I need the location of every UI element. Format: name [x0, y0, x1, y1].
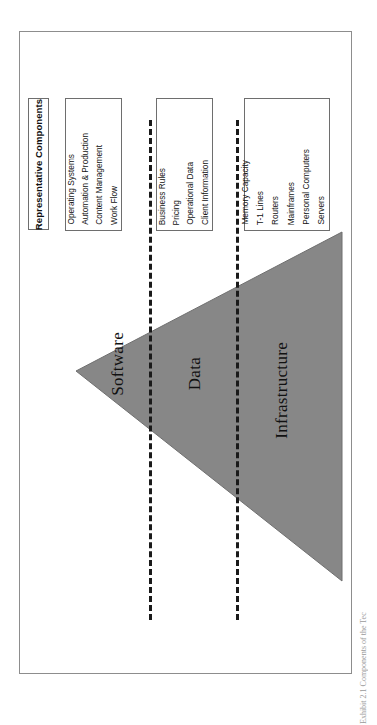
component-item: Routers — [271, 196, 279, 225]
legend-title-label: Representative Components — [33, 98, 44, 229]
component-item: Content Management — [95, 145, 103, 225]
component-item: Personal Computers — [302, 149, 310, 225]
pyramid-polygon — [76, 232, 342, 581]
divider-data-infrastructure — [236, 120, 239, 620]
component-item: Automation & Production — [81, 133, 89, 225]
component-item: Mainframes — [287, 182, 295, 225]
component-list-data: Client Information Operational Data Pric… — [157, 99, 212, 230]
component-box-infrastructure: Servers Personal Computers Mainframes Ro… — [244, 98, 330, 231]
component-item: Operating Systems — [67, 154, 75, 225]
layer-label-data: Data — [185, 357, 205, 390]
component-item: Business Rules — [158, 168, 166, 225]
component-box-data: Client Information Operational Data Pric… — [156, 98, 213, 231]
figure-caption: Exhibit 2.1 Components of the Technology… — [359, 612, 368, 724]
divider-software-data — [149, 120, 152, 620]
component-item: Servers — [317, 196, 325, 225]
legend-title-box: Representative Components — [28, 98, 49, 230]
component-item: Work Flow — [110, 186, 118, 225]
layer-label-software: Software — [108, 332, 128, 396]
component-item: T-1 Lines — [256, 191, 264, 225]
figure-frame: Representative Components Work Flow Cont… — [19, 31, 352, 674]
component-list-software: Work Flow Content Management Automation … — [66, 99, 121, 230]
component-item: Operational Data — [186, 162, 194, 225]
component-item: Memory Capacity — [241, 160, 249, 225]
component-item: Pricing — [172, 200, 180, 225]
component-list-infrastructure: Servers Personal Computers Mainframes Ro… — [245, 99, 329, 230]
component-item: Client Information — [201, 160, 209, 225]
layer-label-infrastructure: Infrastructure — [272, 342, 292, 439]
component-box-software: Work Flow Content Management Automation … — [65, 98, 122, 231]
